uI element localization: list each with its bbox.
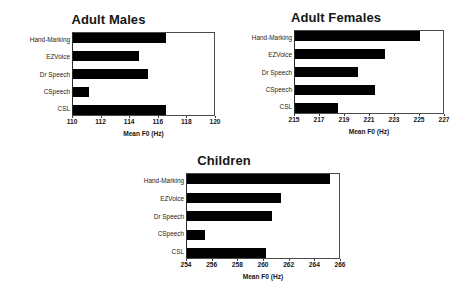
axis-tick-label: 260 <box>257 261 268 269</box>
plot-grid-children: Hand-MarkingEZVoiceDr SpeechCSpeechCSL <box>108 173 340 259</box>
bar-row <box>187 211 339 221</box>
axis-tick-label: 256 <box>206 261 217 269</box>
bar-row <box>187 248 339 258</box>
category-axis-children: Hand-MarkingEZVoiceDr SpeechCSpeechCSL <box>108 173 184 259</box>
plot-grid-adult-males: Hand-MarkingEZVoiceDr SpeechCSpeechCSL <box>2 32 215 116</box>
bar-row <box>295 49 443 59</box>
bar <box>295 85 375 95</box>
category-label: CSL <box>2 105 70 112</box>
bar <box>73 51 139 61</box>
plot-grid-adult-females: Hand-MarkingEZVoiceDr SpeechCSpeechCSL <box>228 30 444 114</box>
bar-row <box>73 69 214 79</box>
axis-tick-label: 110 <box>67 118 78 126</box>
bar <box>187 230 205 240</box>
category-label: CSL <box>108 248 184 255</box>
bar <box>295 49 385 59</box>
bar-row <box>73 51 214 61</box>
chart-title-adult-males: Adult Males <box>2 12 215 27</box>
axis-tick-label: 120 <box>209 118 220 126</box>
category-label: EZVoice <box>108 195 184 202</box>
axis-title-adult-females: Mean F0 (Hz) <box>294 127 444 136</box>
axis-tick-label: 264 <box>309 261 320 269</box>
axis-tick-label: 114 <box>124 118 135 126</box>
value-axis-adult-females: 215217219221223225227 <box>294 114 444 127</box>
category-label: EZVoice <box>228 51 292 58</box>
axis-tick-label: 225 <box>413 116 424 124</box>
bar <box>73 105 166 115</box>
category-label: Hand-Marking <box>2 36 70 43</box>
bar-row <box>187 230 339 240</box>
axis-tick-label: 116 <box>152 118 163 126</box>
category-axis-adult-males: Hand-MarkingEZVoiceDr SpeechCSpeechCSL <box>2 32 70 116</box>
chart-panel-adult-females: Adult Females Hand-MarkingEZVoiceDr Spee… <box>228 10 444 136</box>
bar-row <box>73 87 214 97</box>
bar <box>295 31 420 41</box>
axis-tick-label: 112 <box>95 118 106 126</box>
plot-area-children <box>186 173 340 259</box>
plot-area-adult-females <box>294 30 444 114</box>
bar <box>73 33 166 43</box>
chart-title-children: Children <box>108 153 340 168</box>
axis-tick-label: 258 <box>232 261 243 269</box>
category-label: Dr Speech <box>2 71 70 78</box>
category-label: CSpeech <box>2 88 70 95</box>
axis-tick-label: 254 <box>180 261 191 269</box>
bar <box>187 211 272 221</box>
axis-tick-label: 227 <box>438 116 449 124</box>
category-label: CSpeech <box>228 86 292 93</box>
chart-title-adult-females: Adult Females <box>228 10 444 25</box>
bar-row <box>295 103 443 113</box>
chart-panel-children: Children Hand-MarkingEZVoiceDr SpeechCSp… <box>108 153 340 281</box>
value-axis-wrap-adult-males: 110112114116118120 Mean F0 (Hz) <box>72 116 215 138</box>
bar <box>187 193 281 203</box>
bar-row <box>73 105 214 115</box>
category-label: Dr Speech <box>108 213 184 220</box>
axis-title-adult-males: Mean F0 (Hz) <box>72 129 215 138</box>
bar-row <box>73 33 214 43</box>
axis-title-children: Mean F0 (Hz) <box>186 272 340 281</box>
chart-panel-adult-males: Adult Males Hand-MarkingEZVoiceDr Speech… <box>2 12 215 138</box>
category-label: CSpeech <box>108 230 184 237</box>
bar <box>187 174 330 184</box>
category-label: Hand-Marking <box>108 177 184 184</box>
axis-tick-label: 221 <box>363 116 374 124</box>
bar <box>187 248 266 258</box>
value-axis-wrap-children: 254256258260262264266 Mean F0 (Hz) <box>186 259 340 281</box>
plot-area-adult-males <box>72 32 215 116</box>
bar-row <box>295 67 443 77</box>
bar <box>73 87 89 97</box>
value-axis-children: 254256258260262264266 <box>186 259 340 272</box>
bar-row <box>187 193 339 203</box>
bar-row <box>187 174 339 184</box>
value-axis-adult-males: 110112114116118120 <box>72 116 215 129</box>
axis-tick-label: 262 <box>283 261 294 269</box>
axis-tick-label: 118 <box>181 118 192 126</box>
bar <box>73 69 148 79</box>
category-label: Dr Speech <box>228 69 292 76</box>
bar-row <box>295 31 443 41</box>
axis-tick-label: 217 <box>313 116 324 124</box>
category-label: EZVoice <box>2 53 70 60</box>
value-axis-wrap-adult-females: 215217219221223225227 Mean F0 (Hz) <box>294 114 444 136</box>
category-axis-adult-females: Hand-MarkingEZVoiceDr SpeechCSpeechCSL <box>228 30 292 114</box>
axis-tick-label: 215 <box>288 116 299 124</box>
category-label: Hand-Marking <box>228 34 292 41</box>
axis-tick-label: 223 <box>388 116 399 124</box>
bar <box>295 103 338 113</box>
category-label: CSL <box>228 103 292 110</box>
bar <box>295 67 358 77</box>
axis-tick-label: 219 <box>338 116 349 124</box>
axis-tick-label: 266 <box>334 261 345 269</box>
bar-row <box>295 85 443 95</box>
